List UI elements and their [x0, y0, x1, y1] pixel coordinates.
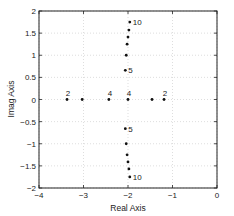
- data-point: [163, 98, 166, 101]
- data-point: [66, 98, 69, 101]
- data-point: [124, 69, 127, 72]
- y-tick-label: 0.5: [25, 73, 37, 82]
- data-point: [125, 54, 128, 57]
- y-tick-label: −2: [27, 184, 37, 193]
- x-tick-label: −3: [79, 191, 89, 200]
- data-point: [128, 21, 131, 24]
- data-point: [126, 43, 129, 46]
- x-axis-ticks: −4−3−2−10: [34, 11, 219, 200]
- data-point: [151, 98, 154, 101]
- y-axis-ticks: 21.510.50−0.5−1−1.5−2: [20, 7, 217, 193]
- data-point: [127, 36, 130, 39]
- data-point: [127, 168, 130, 171]
- y-tick-label: 0: [32, 96, 37, 105]
- y-axis-label: Imag Axis: [6, 81, 16, 118]
- data-point: [126, 153, 129, 156]
- data-point: [127, 29, 130, 32]
- point-gain-label: 5: [128, 66, 133, 75]
- x-tick-label: −1: [168, 191, 178, 200]
- data-point: [127, 160, 130, 163]
- y-tick-label: 1: [32, 51, 37, 60]
- point-gain-label: 4: [127, 89, 132, 98]
- data-points: 5105102442: [66, 18, 168, 182]
- data-point: [124, 127, 127, 130]
- data-point: [81, 98, 84, 101]
- point-gain-label: 10: [133, 173, 142, 182]
- point-gain-label: 2: [66, 89, 71, 98]
- point-gain-label: 2: [163, 89, 168, 98]
- x-axis-label: Real Axis: [110, 203, 145, 213]
- point-gain-label: 4: [108, 89, 113, 98]
- x-tick-label: −2: [123, 191, 133, 200]
- y-tick-label: −0.5: [20, 118, 36, 127]
- data-point: [128, 176, 131, 179]
- point-gain-label: 10: [133, 18, 142, 27]
- y-tick-label: −1: [27, 140, 37, 149]
- y-tick-label: 1.5: [25, 29, 37, 38]
- data-point: [107, 98, 110, 101]
- data-point: [127, 98, 130, 101]
- x-tick-label: 0: [215, 191, 220, 200]
- root-locus-chart: −4−3−2−10 21.510.50−0.5−1−1.5−2 51051024…: [0, 0, 234, 216]
- y-tick-label: −1.5: [20, 162, 36, 171]
- data-point: [125, 142, 128, 145]
- point-gain-label: 5: [128, 125, 133, 134]
- y-tick-label: 2: [32, 7, 37, 16]
